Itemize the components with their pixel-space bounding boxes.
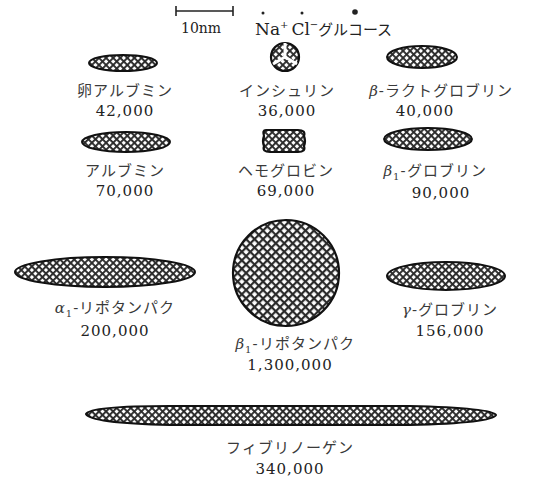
gamma-globulin-mw: 156,000 [395, 322, 505, 340]
hemoglobin-shape [263, 130, 305, 152]
beta-lactoglobulin-name: -ラクトグロブリン [379, 82, 513, 100]
beta-symbol: β [383, 162, 393, 180]
reference-molecules: Na+Cl−グルコース [255, 18, 392, 39]
scale-bar-label: 10nm [181, 20, 221, 36]
fibrinogen-name: フィブリノーゲン [215, 436, 365, 457]
alpha1-lipoprotein-mw: 200,000 [60, 322, 170, 340]
fibrinogen-mw: 340,000 [235, 460, 345, 478]
beta1-lipoprotein-mw: 1,300,000 [225, 356, 355, 374]
scale-bar [176, 6, 233, 16]
beta-lactoglobulin-mw: 40,000 [370, 102, 480, 120]
beta-symbol: β [235, 335, 245, 353]
sodium-label: Na [255, 19, 280, 39]
alpha-symbol: α [55, 299, 66, 317]
beta1-globulin-shape [384, 128, 472, 150]
insulin-name: インシュリン [232, 79, 342, 100]
gamma-globulin-label: γ-グロブリン [385, 298, 515, 319]
na-dot [262, 12, 265, 15]
albumin-shape [82, 132, 170, 152]
chloride-charge: − [310, 19, 318, 30]
beta1-lipoprotein-shape [233, 220, 339, 326]
hemoglobin-name: ヘモグロビン [226, 159, 346, 180]
egg-albumin-shape [89, 55, 157, 71]
chloride-label: Cl [291, 19, 309, 39]
hemoglobin-mw: 69,000 [226, 182, 346, 200]
beta1-lipoprotein-label: β1-リポタンパク [220, 332, 370, 355]
beta1-globulin-label: β1-グロブリン [370, 159, 500, 182]
beta-lactoglobulin-shape [387, 46, 457, 68]
egg-albumin-name: 卵アルブミン [70, 79, 180, 100]
alpha1-lipoprotein-name: -リポタンパク [73, 299, 175, 317]
gamma-symbol: γ [402, 301, 412, 319]
beta1-lipoprotein-name: -リポタンパク [252, 335, 354, 353]
albumin-name: アルブミン [70, 159, 180, 180]
gamma-globulin-shape [387, 262, 505, 290]
insulin-shape [271, 43, 299, 71]
protein-shapes-diagram [0, 0, 539, 486]
sodium-charge: + [280, 19, 288, 30]
beta1-globulin-mw: 90,000 [386, 184, 496, 202]
fibrinogen-shape [86, 406, 496, 425]
beta1-globulin-name: -グロブリン [400, 162, 486, 180]
alpha1-lipoprotein-shape [15, 257, 195, 287]
beta-lactoglobulin-label: β-ラクトグロブリン [356, 79, 526, 100]
beta-symbol: β [369, 82, 379, 100]
glucose-label: グルコース [318, 21, 392, 39]
gamma-globulin-name: -グロブリン [412, 301, 498, 319]
insulin-mw: 36,000 [232, 102, 342, 120]
albumin-mw: 70,000 [70, 182, 180, 200]
glucose-dot [352, 9, 358, 15]
cl-dot [301, 12, 304, 15]
egg-albumin-mw: 42,000 [70, 102, 180, 120]
alpha1-lipoprotein-label: α1-リポタンパク [40, 296, 190, 319]
